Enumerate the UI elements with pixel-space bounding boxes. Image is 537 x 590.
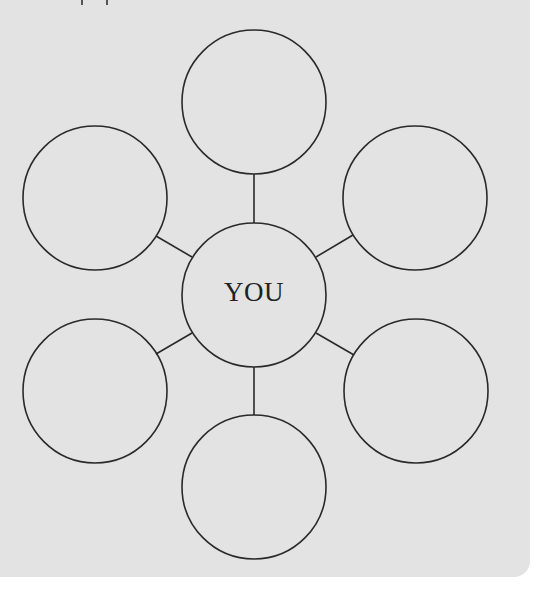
satellite-circle-upper-left — [23, 126, 167, 270]
satellite-circle-lower-right — [344, 319, 488, 463]
satellite-circle-upper-right — [343, 126, 487, 270]
worksheet-panel: YOU — [0, 0, 530, 577]
connector-line-lower-right — [316, 333, 354, 355]
connector-line-upper-right — [316, 235, 353, 257]
satellite-circle-bottom — [182, 415, 326, 559]
hub-label: YOU — [182, 276, 326, 308]
connector-line-upper-left — [156, 236, 192, 257]
connector-line-lower-left — [156, 333, 192, 354]
satellite-circle-lower-left — [23, 319, 167, 463]
satellite-circle-top — [182, 30, 326, 174]
